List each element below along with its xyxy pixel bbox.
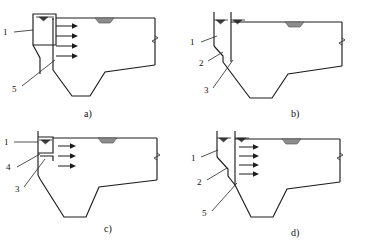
surface-mound xyxy=(285,22,304,27)
callout-2-label: 2 xyxy=(199,58,204,68)
water-level-marker xyxy=(39,17,48,21)
flow-arrow-1 xyxy=(239,144,259,150)
callout-1-label: 1 xyxy=(190,37,195,47)
callout-1-leader xyxy=(201,36,217,42)
callout-5-leader xyxy=(22,60,55,86)
callout-4-leader xyxy=(17,154,40,167)
callout-1-label: 1 xyxy=(4,137,9,147)
bed-profile xyxy=(53,65,155,96)
flow-arrow-2 xyxy=(56,33,78,39)
flow-arrow-3 xyxy=(56,43,78,49)
callout-2-label: 2 xyxy=(197,177,202,187)
surface-mound xyxy=(95,18,114,23)
surface-mound xyxy=(282,139,301,144)
flow-arrow-1 xyxy=(56,23,78,29)
sediment-slope xyxy=(38,175,40,179)
flow-arrow-4 xyxy=(56,53,78,59)
flow-arrow-1 xyxy=(58,143,76,149)
water-level-marker-1 xyxy=(219,138,228,142)
callout-2-leader xyxy=(208,52,223,61)
callout-1-leader xyxy=(14,30,33,32)
panel-b: 1 2 3 b) xyxy=(187,0,373,123)
panel-c: 1 4 3 c) xyxy=(0,123,186,246)
figure-root: 1 5 a) xyxy=(0,0,373,246)
callout-3-leader xyxy=(213,60,233,88)
bed-profile xyxy=(223,62,342,98)
sediment-slope xyxy=(33,45,40,74)
panel-a-caption: a) xyxy=(84,108,92,120)
sediment-slope-stepped xyxy=(217,157,235,185)
panel-a: 1 5 a) xyxy=(0,0,186,123)
flow-arrow-2 xyxy=(239,153,259,159)
callout-5-label: 5 xyxy=(202,208,207,218)
callout-1-label: 1 xyxy=(3,27,8,37)
callout-5-leader xyxy=(212,183,237,211)
callout-4-label: 4 xyxy=(6,162,11,172)
flow-arrow-3 xyxy=(239,162,259,168)
sediment-slope xyxy=(214,46,223,62)
callout-3-label: 3 xyxy=(204,85,209,95)
bed-profile xyxy=(40,179,157,217)
flow-arrow-2 xyxy=(58,153,76,159)
surface-mound xyxy=(98,138,117,143)
flow-arrow-4 xyxy=(239,171,259,177)
panel-d-caption: d) xyxy=(291,227,299,239)
callout-5-label: 5 xyxy=(12,84,17,94)
water-level-marker-1 xyxy=(216,20,225,24)
bed-profile xyxy=(235,182,340,217)
callout-2-leader xyxy=(207,168,227,180)
intake-lower-lip xyxy=(40,156,53,161)
intake-box xyxy=(38,137,53,153)
callout-1-label: 1 xyxy=(191,153,196,163)
callout-3-label: 3 xyxy=(15,184,20,194)
callout-1-leader xyxy=(201,150,218,157)
water-level-marker xyxy=(41,140,50,144)
panel-d: 1 2 5 d) xyxy=(187,123,373,246)
panel-c-caption: c) xyxy=(104,223,112,235)
panel-b-caption: b) xyxy=(291,108,299,120)
flow-arrow-3 xyxy=(58,163,76,169)
